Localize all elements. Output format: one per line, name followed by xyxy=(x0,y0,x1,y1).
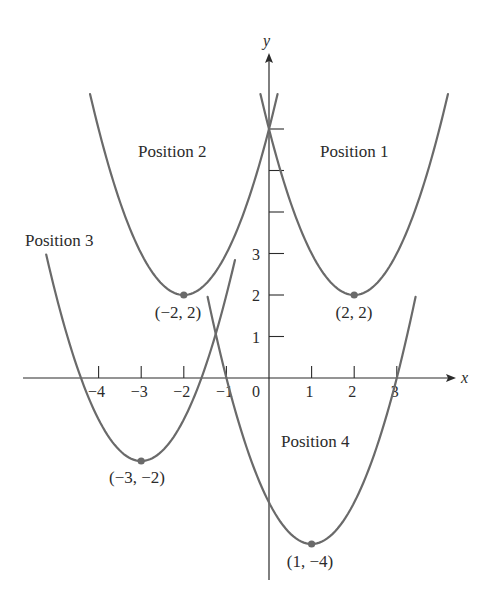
x-tick-label: −3 xyxy=(131,383,148,400)
position-2-label: Position 2 xyxy=(138,142,207,161)
vertex-point-3 xyxy=(138,457,145,464)
parabola-position-1 xyxy=(260,94,447,295)
parabola-position-2 xyxy=(90,94,277,295)
y-ticks: 123 xyxy=(252,129,284,346)
vertex-1-label: (2, 2) xyxy=(336,303,373,322)
x-tick-label: 0 xyxy=(252,383,260,400)
x-tick-label: −2 xyxy=(173,383,190,400)
position-3-label: Position 3 xyxy=(25,231,94,250)
parabola-position-4 xyxy=(208,297,416,544)
x-ticks: −4−3−2−10123 xyxy=(88,366,399,400)
y-tick-label: 3 xyxy=(252,246,260,263)
parabolas xyxy=(46,94,448,547)
axes: x y xyxy=(23,32,468,580)
vertex-2-label: (−2, 2) xyxy=(155,303,201,322)
vertex-3-label: (−3, −2) xyxy=(109,468,165,487)
position-1-label: Position 1 xyxy=(320,142,389,161)
parabola-position-3 xyxy=(46,255,235,461)
x-tick-label: 1 xyxy=(306,383,314,400)
x-tick-label: 2 xyxy=(348,383,356,400)
x-tick-label: −4 xyxy=(88,383,105,400)
y-axis-label: y xyxy=(261,32,271,50)
vertex-point-1 xyxy=(351,291,358,298)
vertex-point-2 xyxy=(180,291,187,298)
vertex-4-label: (1, −4) xyxy=(287,552,333,571)
x-axis-label: x xyxy=(460,369,468,386)
y-tick-label: 1 xyxy=(252,329,260,346)
parabola-translation-diagram: x y −4−3−2−10123 123 Position 1 Position… xyxy=(0,0,493,592)
y-tick-label: 2 xyxy=(252,287,260,304)
vertex-point-4 xyxy=(308,540,315,547)
position-4-label: Position 4 xyxy=(281,432,350,451)
